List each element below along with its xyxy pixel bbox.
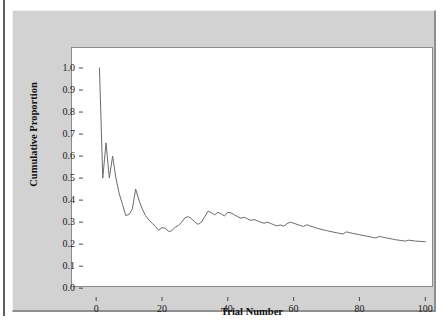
chart-screenshot: Cumulative Proportion Trial Number 0.00.… <box>0 0 446 323</box>
y-tick-label: 0.6 <box>49 150 75 161</box>
y-tick-label: 0.2 <box>49 238 75 249</box>
y-axis-title: Cumulative Proportion <box>28 55 39 215</box>
y-tick-label: 0.1 <box>49 260 75 271</box>
x-tick-label: 20 <box>142 303 182 314</box>
x-tick-label: 0 <box>76 303 116 314</box>
page-edge-rule <box>3 0 5 316</box>
y-tick-label: 0.3 <box>49 216 75 227</box>
x-tick-label: 60 <box>274 303 314 314</box>
x-tick-label: 80 <box>339 303 379 314</box>
x-tick-label: 100 <box>405 303 445 314</box>
y-tick-label: 1.0 <box>49 62 75 73</box>
y-tick-label: 0.5 <box>49 172 75 183</box>
x-tick-label: 40 <box>208 303 248 314</box>
y-tick-label: 0.9 <box>49 84 75 95</box>
plot-area <box>71 47 433 287</box>
figure-panel: Cumulative Proportion Trial Number 0.00.… <box>12 10 436 312</box>
y-tick-label: 0.4 <box>49 194 75 205</box>
y-tick-label: 0.8 <box>49 106 75 117</box>
y-tick-label: 0.7 <box>49 128 75 139</box>
y-tick-label: 0.0 <box>49 282 75 293</box>
